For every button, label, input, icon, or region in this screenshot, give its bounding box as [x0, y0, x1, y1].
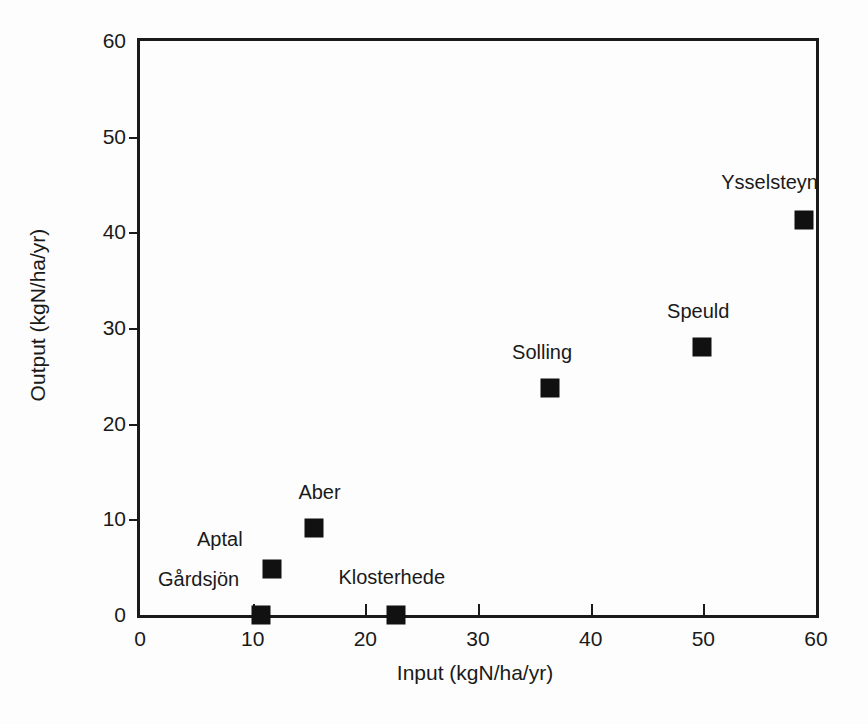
x-tick-50: [703, 604, 705, 615]
x-tick-label-10: 10: [241, 627, 264, 651]
data-point-label: Aber: [298, 481, 340, 504]
data-point-label: Solling: [512, 341, 572, 364]
data-point-marker: [541, 379, 560, 398]
data-point-marker: [794, 210, 813, 229]
y-tick-label-50: 50: [103, 125, 126, 149]
y-tick-40: [129, 232, 140, 234]
data-point-label: Speuld: [667, 300, 729, 323]
data-point-marker: [251, 606, 270, 625]
x-tick-label-20: 20: [354, 627, 377, 651]
x-tick-label-60: 60: [804, 627, 827, 651]
x-tick-label-30: 30: [466, 627, 489, 651]
data-point-label: Aptal: [197, 528, 243, 551]
data-point-marker: [386, 606, 405, 625]
x-tick-label-40: 40: [579, 627, 602, 651]
x-tick-label-0: 0: [134, 627, 146, 651]
y-tick-label-30: 30: [103, 316, 126, 340]
data-point-marker: [262, 560, 281, 579]
x-tick-30: [478, 604, 480, 615]
y-tick-label-40: 40: [103, 220, 126, 244]
y-tick-20: [129, 424, 140, 426]
scatter-plot-figure: Output (kgN/ha/yr) 0102030405060 0102030…: [0, 0, 868, 724]
y-tick-30: [129, 328, 140, 330]
x-tick-20: [365, 604, 367, 615]
y-tick-label-20: 20: [103, 412, 126, 436]
y-tick-50: [129, 137, 140, 139]
y-tick-label-60: 60: [103, 29, 126, 53]
y-tick-label-0: 0: [114, 603, 126, 627]
data-point-marker: [693, 338, 712, 357]
x-axis-title: Input (kgN/ha/yr): [137, 661, 813, 685]
y-tick-0: [140, 615, 150, 617]
y-tick-10: [129, 519, 140, 521]
data-point-label: Gårdsjön: [158, 568, 239, 591]
x-tick-40: [591, 604, 593, 615]
y-tick-label-10: 10: [103, 507, 126, 531]
x-tick-label-50: 50: [692, 627, 715, 651]
data-point-marker: [304, 518, 323, 537]
y-axis-title: Output (kgN/ha/yr): [26, 165, 50, 465]
data-point-label: Klosterhede: [338, 566, 445, 589]
data-point-label: Ysselsteyn: [721, 171, 818, 194]
plot-area: 0102030405060 0102030405060 GårdsjönApta…: [137, 38, 819, 618]
